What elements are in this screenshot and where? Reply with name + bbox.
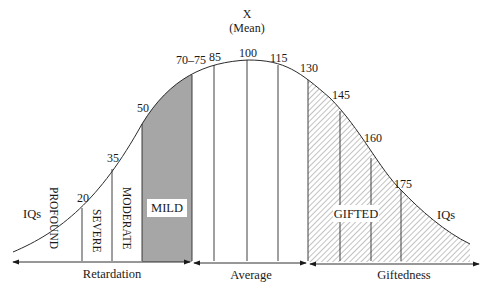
mild-label: MILD bbox=[151, 201, 183, 215]
tick-145: 145 bbox=[332, 88, 350, 102]
tick-50: 50 bbox=[137, 101, 149, 115]
tick-160: 160 bbox=[364, 131, 382, 145]
iqs-label-right: IQs bbox=[437, 208, 455, 222]
mean-symbol: X bbox=[243, 7, 252, 21]
mean-label: (Mean) bbox=[229, 21, 264, 35]
severe-label: SEVERE bbox=[91, 209, 103, 252]
average-label: Average bbox=[230, 268, 272, 282]
retardation-label: Retardation bbox=[83, 267, 142, 281]
tick-70-75: 70–75 bbox=[176, 53, 206, 67]
giftedness-label: Giftedness bbox=[377, 268, 431, 282]
tick-130: 130 bbox=[300, 61, 318, 75]
iqs-label-left: IQs bbox=[23, 207, 41, 221]
tick-175: 175 bbox=[394, 177, 412, 191]
normal-distribution-diagram: X (Mean) 20 35 50 70–75 85 100 115 130 1… bbox=[0, 0, 489, 286]
tick-35: 35 bbox=[107, 151, 119, 165]
gifted-region bbox=[308, 0, 478, 262]
tick-20: 20 bbox=[77, 191, 89, 205]
moderate-label: MODERATE bbox=[121, 187, 133, 250]
tick-85: 85 bbox=[209, 50, 221, 64]
tick-115: 115 bbox=[270, 51, 288, 65]
mild-region bbox=[142, 0, 192, 262]
profound-label: PROFOUND bbox=[48, 187, 60, 249]
gifted-label: GIFTED bbox=[334, 207, 378, 221]
tick-100: 100 bbox=[239, 46, 257, 60]
